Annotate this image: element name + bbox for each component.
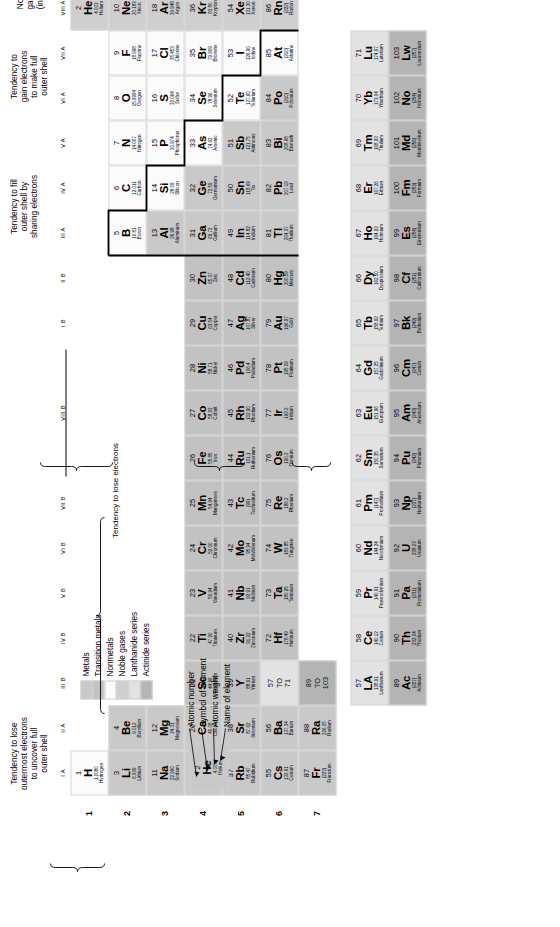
element-cell-se[interactable]: 34Se78.96Selenium	[184, 75, 222, 120]
element-cell-si[interactable]: 14Si28.09Silicon	[146, 165, 184, 210]
element-cell-fr[interactable]: 87Fr(223)Francium	[298, 750, 336, 795]
atomic-number: 34	[188, 93, 195, 101]
element-cell-gd[interactable]: 64Gd157.25Gadolinium	[350, 345, 388, 390]
element-cell-cu[interactable]: 29Cu63.54Copper	[184, 300, 222, 345]
element-cell-mo[interactable]: 42Mo95.94Molybdenum	[222, 525, 260, 570]
element-cell-ru[interactable]: 44Ru101.1Ruthenium	[222, 435, 260, 480]
element-cell-at[interactable]: 85At(210)Astatine	[260, 30, 298, 75]
element-cell-pd[interactable]: 46Pd106.4Palladium	[222, 345, 260, 390]
element-cell-ta[interactable]: 73Ta180.95Tantalum	[260, 570, 298, 615]
element-cell-cs[interactable]: 55Cs132.91Cesium	[260, 750, 298, 795]
element-cell-la[interactable]: 57LA138.91Lanthanum	[350, 660, 388, 705]
element-cell-rn[interactable]: 86Rn(222)Radon	[260, 0, 298, 30]
element-cell-co[interactable]: 27Co58.93Cobalt	[184, 390, 222, 435]
element-cell-es[interactable]: 99Es(254)Einsteinium	[388, 210, 426, 255]
element-cell-he[interactable]: 2He4.003Helium	[70, 0, 108, 30]
element-cell-re[interactable]: 75Re186.2Rhenium	[260, 480, 298, 525]
element-cell-lu[interactable]: 71Lu174.97Lutetium	[350, 30, 388, 75]
element-cell-al[interactable]: 13Al26.98Aluminum	[146, 210, 184, 255]
element-cell-no[interactable]: 102No(254)Nobelium	[388, 75, 426, 120]
actinide-placeholder-cell[interactable]: 89 TO 103	[298, 660, 336, 705]
element-cell-f[interactable]: 9F18.998Fluorine	[108, 30, 146, 75]
element-cell-tl[interactable]: 81Tl204.37Thallium	[260, 210, 298, 255]
element-cell-fe[interactable]: 26Fe55.85Iron	[184, 435, 222, 480]
element-cell-ge[interactable]: 32Ge72.59Germanium	[184, 165, 222, 210]
element-cell-sn[interactable]: 50Sn118.69Tin	[222, 165, 260, 210]
element-cell-ce[interactable]: 58Ce140.12Cerium	[350, 615, 388, 660]
element-cell-tc[interactable]: 43Tc(99)Technetium	[222, 480, 260, 525]
element-cell-nb[interactable]: 41Nb92.91Niobium	[222, 570, 260, 615]
element-cell-be[interactable]: 4Be9.012Beryllium	[108, 705, 146, 750]
element-cell-sm[interactable]: 62Sm150.35Samarium	[350, 435, 388, 480]
element-cell-li[interactable]: 3Li6.939Lithium	[108, 750, 146, 795]
element-cell-tb[interactable]: 65Tb158.92Terbium	[350, 300, 388, 345]
element-cell-i[interactable]: 53I126.90Iodine	[222, 30, 260, 75]
element-cell-ni[interactable]: 28Ni58.71Nickel	[184, 345, 222, 390]
element-cell-kr[interactable]: 36Kr83.80Krypton	[184, 0, 222, 30]
element-cell-cd[interactable]: 48Cd112.40Cadmium	[222, 255, 260, 300]
element-cell-pa[interactable]: 91Pa(231)Protactinium	[388, 570, 426, 615]
element-cell-np[interactable]: 93Np(237)Neptunium	[388, 480, 426, 525]
element-cell-rh[interactable]: 45Rh102.90Rhodium	[222, 390, 260, 435]
element-cell-ag[interactable]: 47Ag107.87Silver	[222, 300, 260, 345]
element-cell-in[interactable]: 49In114.82Indium	[222, 210, 260, 255]
element-cell-am[interactable]: 95Am(243)Americium	[388, 390, 426, 435]
element-cell-dy[interactable]: 66Dy162.50Dysprosium	[350, 255, 388, 300]
element-cell-ir[interactable]: 77Ir192.2Iridium	[260, 390, 298, 435]
element-cell-ba[interactable]: 56Ba137.34Barium	[260, 705, 298, 750]
element-cell-au[interactable]: 79Au196.97Gold	[260, 300, 298, 345]
element-cell-c[interactable]: 6C12.011Carbon	[108, 165, 146, 210]
element-cell-lw[interactable]: 103Lw(257)Lawrencium	[388, 30, 426, 75]
element-cell-mg[interactable]: 12Mg24.31Magnesium	[146, 705, 184, 750]
element-cell-bi[interactable]: 83Bi208.98Bismuth	[260, 120, 298, 165]
element-cell-zr[interactable]: 40Zr91.22Zirconium	[222, 615, 260, 660]
element-cell-mn[interactable]: 25Mn54.94Manganese	[184, 480, 222, 525]
element-cell-pt[interactable]: 78Pt195.09Platinum	[260, 345, 298, 390]
element-cell-cm[interactable]: 96Cm(247)Curium	[388, 345, 426, 390]
element-cell-md[interactable]: 101Md(256)Mendelevium	[388, 120, 426, 165]
element-cell-hf[interactable]: 72Hf178.49Hafnium	[260, 615, 298, 660]
element-cell-tm[interactable]: 69Tm168.93Thulium	[350, 120, 388, 165]
element-cell-xe[interactable]: 54Xe131.30Xenon	[222, 0, 260, 30]
element-cell-pu[interactable]: 94Pu(242)Plutonium	[388, 435, 426, 480]
element-cell-v[interactable]: 23V50.94Vanadium	[184, 570, 222, 615]
element-cell-ac[interactable]: 89Ac(227)Actinium	[388, 660, 426, 705]
element-cell-fm[interactable]: 100Fm(253)Fermium	[388, 165, 426, 210]
element-cell-te[interactable]: 52Te127.60Tellurium	[222, 75, 260, 120]
element-cell-po[interactable]: 84Po(210)Polonium	[260, 75, 298, 120]
element-cell-bk[interactable]: 97Bk(249)Berkelium	[388, 300, 426, 345]
element-cell-yb[interactable]: 70Yb173.04Ytterbium	[350, 75, 388, 120]
element-cell-zn[interactable]: 30Zn65.37Zinc	[184, 255, 222, 300]
element-cell-ho[interactable]: 67Ho164.93Holmium	[350, 210, 388, 255]
element-cell-pm[interactable]: 61Pm(147)Promethium	[350, 480, 388, 525]
element-cell-sb[interactable]: 51Sb121.75Antimony	[222, 120, 260, 165]
element-cell-pr[interactable]: 59Pr140.91Praseodymium	[350, 570, 388, 615]
element-cell-ne[interactable]: 10Ne20.183Neon	[108, 0, 146, 30]
element-cell-eu[interactable]: 63Eu151.96Europium	[350, 390, 388, 435]
element-cell-n[interactable]: 7N14.007Nitrogen	[108, 120, 146, 165]
element-cell-pb[interactable]: 82Pb207.19Lead	[260, 165, 298, 210]
element-cell-b[interactable]: 5B10.81Boron	[108, 210, 146, 255]
element-cell-cf[interactable]: 98Cf(251)Californium	[388, 255, 426, 300]
element-cell-nd[interactable]: 60Nd144.24Neodymium	[350, 525, 388, 570]
element-cell-ga[interactable]: 31Ga69.72Gallium	[184, 210, 222, 255]
element-cell-u[interactable]: 92U238.03Uranium	[388, 525, 426, 570]
element-cell-er[interactable]: 68Er167.26Erbium	[350, 165, 388, 210]
element-cell-o[interactable]: 8O15.9994Oxygen	[108, 75, 146, 120]
element-cell-hg[interactable]: 80Hg200.59Mercury	[260, 255, 298, 300]
element-cell-h[interactable]: 1H1.0080Hydrogen	[70, 750, 108, 795]
element-cell-cr[interactable]: 24Cr52.00Chromium	[184, 525, 222, 570]
element-cell-ar[interactable]: 18Ar39.948Argon	[146, 0, 184, 30]
element-cell-s[interactable]: 16S32.064Sulfur	[146, 75, 184, 120]
lanthanide-placeholder-cell[interactable]: 57 TO 71	[260, 660, 298, 705]
element-cell-cl[interactable]: 17Cl35.453Chlorine	[146, 30, 184, 75]
element-cell-ti[interactable]: 22Ti47.90Titanium	[184, 615, 222, 660]
element-cell-na[interactable]: 11Na22.990Sodium	[146, 750, 184, 795]
element-cell-ra[interactable]: 88Ra226.05Radium	[298, 705, 336, 750]
element-cell-p[interactable]: 15P30.974Phosphorus	[146, 120, 184, 165]
element-cell-br[interactable]: 35Br79.909Bromine	[184, 30, 222, 75]
element-cell-w[interactable]: 74W183.85Tungsten	[260, 525, 298, 570]
element-cell-os[interactable]: 76Os190.2Osmium	[260, 435, 298, 480]
element-cell-th[interactable]: 90Th232.04Thorium	[388, 615, 426, 660]
element-cell-as[interactable]: 33As74.92Arsenic	[184, 120, 222, 165]
